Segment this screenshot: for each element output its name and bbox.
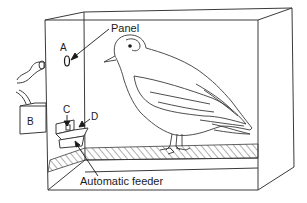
diagram-canvas: B A Panel C D Automatic feeder — [0, 0, 307, 203]
label-a: A — [60, 42, 67, 53]
label-b: B — [27, 116, 34, 127]
label-c: C — [63, 104, 70, 115]
panel-arrow — [71, 29, 109, 60]
cable-icon — [16, 61, 45, 104]
pigeon-illustration — [104, 35, 252, 154]
label-d: D — [91, 111, 98, 122]
label-automatic-feeder: Automatic feeder — [80, 175, 163, 187]
skinner-box-diagram: B A Panel C D Automatic feeder — [0, 0, 307, 203]
response-key — [65, 56, 70, 66]
label-panel: Panel — [111, 22, 139, 34]
pigeon-eye — [128, 44, 132, 48]
